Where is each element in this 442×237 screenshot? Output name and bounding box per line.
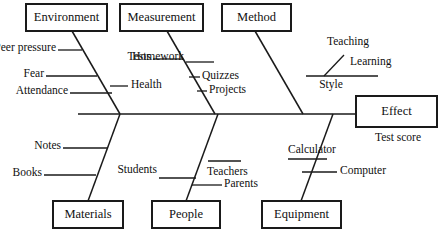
category-box-method-label: Method bbox=[237, 10, 277, 24]
cause-label-peer-pressure: Peer pressure bbox=[0, 41, 56, 54]
rib-equipment bbox=[301, 114, 333, 201]
rib-environment bbox=[72, 31, 120, 114]
rib-method bbox=[255, 31, 303, 114]
cause-label-attendance: Attendance bbox=[16, 84, 68, 96]
category-box-people-label: People bbox=[169, 207, 203, 221]
cause-label-notes: Notes bbox=[34, 139, 61, 151]
rib-materials bbox=[88, 114, 120, 201]
cause-label-homework: Homework bbox=[132, 50, 184, 62]
cause-label-parents: Parents bbox=[224, 177, 258, 189]
cause-label-style: Style bbox=[319, 78, 343, 91]
category-box-environment-label: Environment bbox=[34, 10, 100, 24]
cause-label-projects: Projects bbox=[209, 83, 247, 96]
fishbone-canvas: Effect Test score Environment Peer press… bbox=[0, 0, 442, 237]
cause-label-health: Health bbox=[131, 78, 162, 90]
twig-style-diagonal bbox=[324, 55, 344, 76]
cause-label-learning: Learning bbox=[350, 55, 392, 68]
cause-label-teachers: Teachers bbox=[207, 165, 248, 177]
cause-label-fear: Fear bbox=[24, 67, 45, 79]
category-box-equipment-label: Equipment bbox=[274, 207, 329, 221]
cause-label-computer: Computer bbox=[340, 164, 386, 177]
fishbone-diagram: Effect Test score Environment Peer press… bbox=[0, 0, 442, 237]
effect-box: Effect bbox=[356, 96, 437, 127]
category-box-materials-label: Materials bbox=[64, 207, 111, 221]
category-equipment: Equipment Calculator Computer bbox=[262, 114, 386, 228]
rib-people bbox=[186, 114, 218, 201]
cause-label-quizzes: Quizzes bbox=[202, 69, 240, 81]
cause-label-books: Books bbox=[13, 166, 43, 178]
cause-label-calculator: Calculator bbox=[288, 143, 336, 155]
effect-sub-label: Test score bbox=[375, 131, 421, 143]
category-people: People Students Teachers Parents bbox=[117, 114, 258, 228]
category-environment: Environment Peer pressure Fear Attendanc… bbox=[0, 4, 120, 114]
cause-label-students: Students bbox=[117, 163, 157, 175]
cause-label-teaching: Teaching bbox=[327, 35, 369, 48]
category-box-measurement-label: Measurement bbox=[127, 10, 196, 24]
category-materials: Materials Notes Books bbox=[13, 114, 123, 228]
effect-box-label: Effect bbox=[381, 104, 412, 118]
